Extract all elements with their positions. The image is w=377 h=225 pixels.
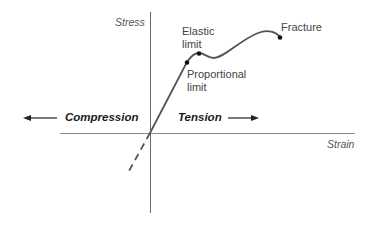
proportional-limit-point: [185, 60, 190, 65]
stress-strain-diagram: Stress Strain Compression Tension Elasti…: [0, 0, 377, 225]
elastic-limit-label-line2: limit: [182, 38, 214, 51]
fracture-label: Fracture: [281, 21, 322, 34]
compression-label: Compression: [65, 112, 139, 124]
fracture-point: [278, 35, 283, 40]
stress-axis-label: Stress: [115, 17, 145, 28]
compression-dashed-line: [129, 133, 150, 171]
proportional-limit-label-line1: Proportional: [187, 68, 246, 81]
elastic-limit-label-line1: Elastic: [182, 25, 214, 38]
elastic-limit-label: Elastic limit: [182, 25, 214, 51]
strain-axis-label: Strain: [327, 139, 354, 150]
proportional-limit-label-line2: limit: [187, 81, 246, 94]
elastic-limit-point: [197, 51, 202, 56]
tension-label: Tension: [178, 112, 222, 124]
compression-arrow-icon: [23, 115, 57, 121]
tension-arrow-icon: [228, 115, 259, 121]
proportional-limit-label: Proportional limit: [187, 68, 246, 94]
